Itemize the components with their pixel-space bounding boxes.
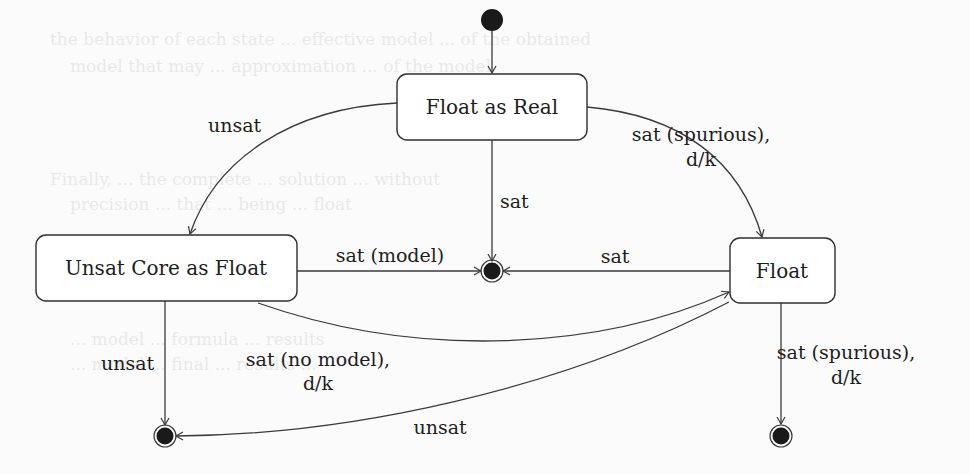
- svg-text:... model ... formula ... resu: ... model ... formula ... results: [70, 329, 325, 349]
- state-unsat-core-as-float[interactable]: Unsat Core as Float: [36, 235, 297, 301]
- state-label: Float as Real: [426, 95, 558, 119]
- final-state-bottom-right: [770, 425, 792, 447]
- state-float[interactable]: Float: [730, 238, 835, 303]
- state-float-as-real[interactable]: Float as Real: [397, 74, 587, 140]
- final-state-bottom-left: [154, 425, 176, 447]
- label-core-to-float-line2: d/k: [303, 372, 334, 394]
- label-float-to-final-spurious-line2: d/k: [831, 366, 862, 388]
- label-real-to-core: unsat: [208, 114, 262, 136]
- label-core-to-final-model: sat (model): [336, 244, 445, 266]
- label-core-to-float-line1: sat (no model),: [246, 348, 390, 370]
- state-diagram: the behavior of each state ... effective…: [0, 0, 970, 474]
- label-real-to-float-line1: sat (spurious),: [632, 123, 770, 145]
- edge-unsat-core-to-float: [258, 292, 729, 341]
- svg-text:Finally, ... the complete ...: Finally, ... the complete ... solution .…: [50, 169, 440, 189]
- label-float-to-final-sat: sat: [601, 245, 630, 267]
- svg-text:the behavior of each state ...: the behavior of each state ... effective…: [50, 29, 591, 49]
- final-state-center: [481, 260, 503, 282]
- state-label: Float: [756, 259, 808, 283]
- state-label: Unsat Core as Float: [65, 256, 267, 280]
- label-float-to-final-spurious-line1: sat (spurious),: [777, 341, 915, 363]
- label-real-to-float-line2: d/k: [686, 148, 717, 170]
- label-float-to-final-unsat: unsat: [413, 416, 467, 438]
- label-core-to-final-unsat: unsat: [101, 352, 155, 374]
- label-real-to-final-sat: sat: [500, 190, 529, 212]
- svg-text:precision ... that ... being .: precision ... that ... being ... float: [70, 194, 352, 214]
- initial-state-node: [481, 9, 503, 31]
- svg-text:model that may ... approximati: model that may ... approximation ... of …: [70, 56, 491, 76]
- diagram-canvas: the behavior of each state ... effective…: [0, 0, 970, 474]
